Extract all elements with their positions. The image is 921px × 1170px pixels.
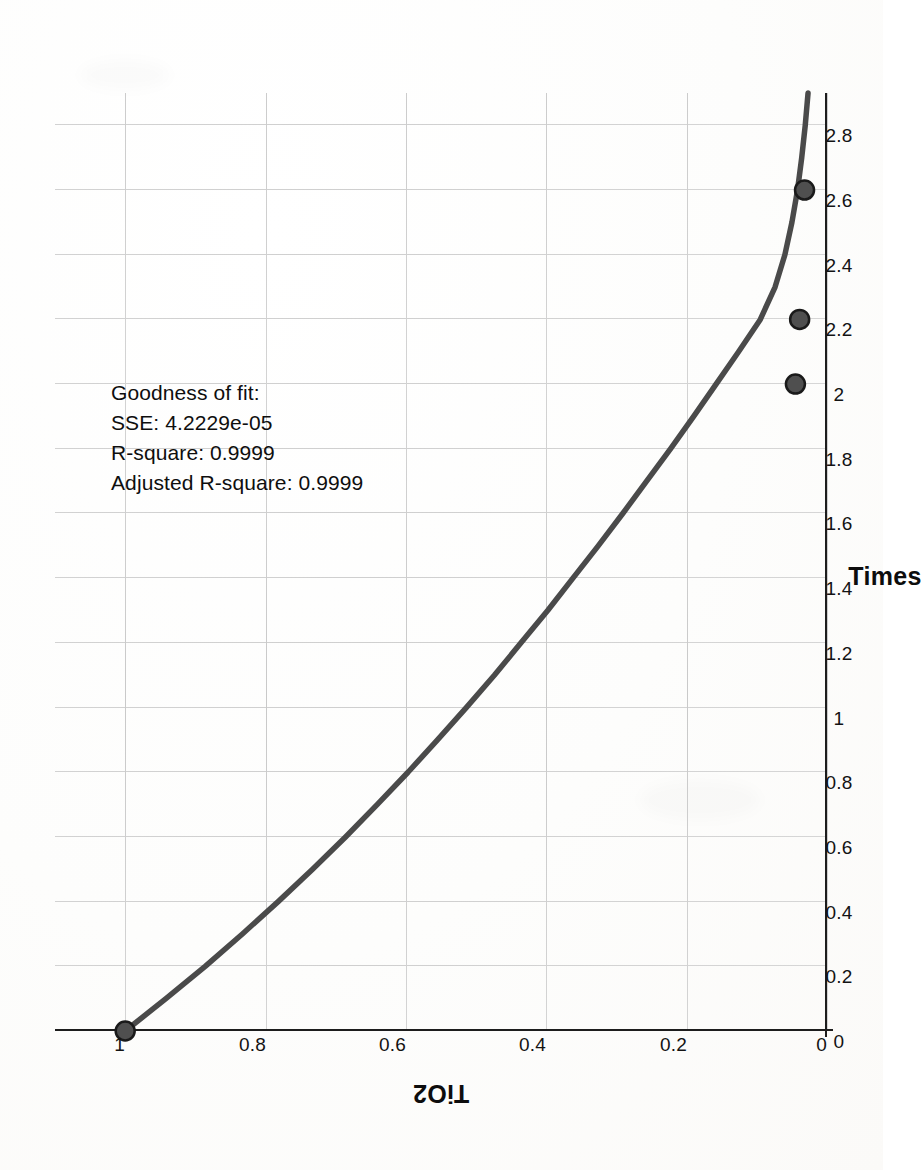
curve-and-markers — [55, 93, 827, 1031]
fitted-curve — [125, 93, 808, 1031]
x-tick-label: 2.2 — [825, 319, 852, 341]
goodness-of-fit-annotation: Goodness of fit: SSE: 4.2229e-05 R-squar… — [111, 378, 363, 498]
annotation-line-sse: SSE: 4.2229e-05 — [111, 408, 363, 438]
x-tick-label: 0.6 — [825, 837, 852, 859]
y-axis-title: TiO2 — [412, 1079, 468, 1108]
data-point-marker — [795, 181, 814, 200]
y-tick-label: 0 — [816, 1034, 827, 1056]
y-tick-label: 0.6 — [378, 1034, 405, 1056]
y-tick-label: 0.4 — [519, 1034, 546, 1056]
x-tick-label: 0.8 — [825, 772, 852, 794]
x-tick-label: 2.8 — [825, 125, 852, 147]
data-point-marker — [785, 375, 804, 394]
y-tick-label: 0.8 — [238, 1034, 265, 1056]
y-tick-label: 0.2 — [659, 1034, 686, 1056]
x-tick-label: 1.8 — [825, 449, 852, 471]
data-point-marker — [790, 310, 809, 329]
annotation-line-rsquare: R-square: 0.9999 — [111, 438, 363, 468]
x-tick-label: 0.4 — [825, 902, 852, 924]
x-tick-label: 2.6 — [825, 190, 852, 212]
annotation-line-adjusted: Adjusted R-square: 0.9999 — [111, 468, 363, 498]
x-tick-label: 2.4 — [825, 255, 852, 277]
annotation-line-heading: Goodness of fit: — [111, 378, 363, 408]
x-tick-label: 0.2 — [825, 966, 852, 988]
x-tick-label: 2 — [833, 384, 844, 406]
x-tick-label: 1.2 — [825, 643, 852, 665]
y-tick-label: 1 — [114, 1034, 125, 1056]
curve-fit-figure: 00.20.40.60.811.21.41.61.822.22.42.62.8 … — [37, 55, 847, 1115]
plot-area — [55, 93, 827, 1031]
x-tick-label: 1.6 — [825, 513, 852, 535]
x-tick-label: 0 — [833, 1031, 844, 1053]
x-tick-label: 1 — [833, 708, 844, 730]
x-axis-title: Times — [848, 562, 921, 591]
